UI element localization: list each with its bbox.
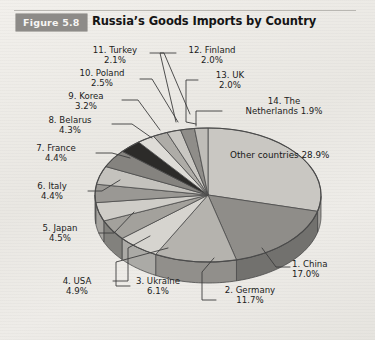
leader-poland	[140, 79, 178, 122]
slice-label-turkey: 11. Turkey 2.1%	[78, 45, 152, 66]
slice-label-germany: 2. Germany 11.7%	[206, 285, 294, 306]
pie-top-faces	[95, 128, 321, 262]
slice-label-ukraine: 3. Ukraine 6.1%	[118, 276, 198, 297]
slice-label-netherlands: 14. The Netherlands 1.9%	[222, 96, 346, 117]
figure-number-badge: Figure 5.8	[16, 14, 87, 31]
figure-header: Figure 5.8 Russia’s Goods Imports by Cou…	[0, 0, 375, 34]
leader-belarus	[112, 124, 152, 138]
slice-label-korea: 9. Korea 3.2%	[50, 91, 122, 112]
slice-label-china: 1. China 17.0%	[292, 259, 370, 280]
slice-label-finland: 12. Finland 2.0%	[176, 45, 248, 66]
slice-label-belarus: 8. Belarus 4.3%	[30, 115, 110, 136]
slice-label-japan: 5. Japan 4.5%	[22, 223, 98, 244]
leader-netherlands	[196, 111, 222, 126]
slice-label-usa: 4. USA 4.9%	[42, 276, 112, 297]
slice-label-italy: 6. Italy 4.4%	[17, 181, 87, 202]
slice-label-france: 7. France 4.4%	[18, 143, 94, 164]
header-rule	[14, 10, 356, 11]
slice-label-poland: 10. Poland 2.5%	[64, 68, 140, 89]
slice-label-uk: 13. UK 2.0%	[198, 70, 262, 91]
figure-title: Russia’s Goods Imports by Country	[92, 14, 316, 28]
pie-chart: Other countries 28.9% 11. Turkey 2.1% 10…	[0, 34, 375, 340]
slice-label-other: Other countries 28.9%	[230, 150, 326, 161]
leader-korea	[122, 100, 160, 130]
